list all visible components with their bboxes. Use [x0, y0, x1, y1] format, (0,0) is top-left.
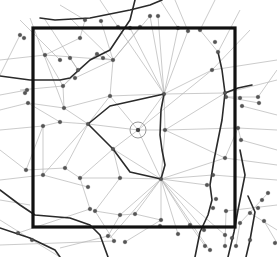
- network-node: [260, 198, 264, 202]
- network-node: [95, 52, 99, 56]
- network-node: [41, 124, 45, 128]
- network-node: [86, 185, 90, 189]
- network-node: [58, 58, 62, 62]
- network-node: [203, 244, 207, 248]
- network-node: [78, 36, 82, 40]
- network-node: [16, 231, 20, 235]
- network-node: [162, 92, 166, 96]
- network-node: [22, 36, 26, 40]
- network-node: [41, 173, 45, 177]
- network-node: [238, 96, 242, 100]
- network-node: [118, 213, 122, 217]
- network-node: [106, 234, 110, 238]
- network-node: [186, 29, 190, 33]
- network-node: [239, 138, 243, 142]
- network-node: [111, 58, 115, 62]
- network-node: [256, 206, 260, 210]
- network-node: [93, 209, 97, 213]
- network-node: [101, 56, 105, 60]
- network-node: [210, 68, 214, 72]
- network-node: [223, 156, 227, 160]
- network-node: [262, 219, 266, 223]
- network-node: [123, 240, 127, 244]
- network-node: [205, 183, 209, 187]
- network-node: [133, 212, 137, 216]
- network-node: [68, 56, 72, 60]
- network-node: [118, 176, 122, 180]
- network-node: [223, 244, 227, 248]
- network-node: [43, 53, 47, 57]
- network-node: [208, 248, 212, 252]
- network-node: [211, 173, 215, 177]
- network-node: [23, 91, 27, 95]
- network-node: [240, 104, 244, 108]
- network-node: [202, 228, 206, 232]
- network-node: [224, 209, 228, 213]
- network-node: [159, 218, 163, 222]
- network-node: [30, 238, 34, 242]
- network-node: [76, 68, 80, 72]
- network-node: [266, 191, 270, 195]
- network-node: [163, 128, 167, 132]
- network-node: [73, 76, 77, 80]
- network-node: [234, 244, 238, 248]
- network-node: [78, 176, 82, 180]
- network-node: [148, 14, 152, 18]
- network-node: [156, 14, 160, 18]
- target-point: [136, 128, 140, 132]
- network-node: [86, 122, 90, 126]
- network-node: [214, 197, 218, 201]
- network-node: [273, 241, 277, 245]
- network-node: [24, 168, 28, 172]
- network-node: [236, 126, 240, 130]
- network-node: [99, 19, 103, 23]
- network-node: [176, 232, 180, 236]
- network-node: [257, 101, 261, 105]
- network-node: [248, 238, 252, 242]
- network-node: [159, 177, 163, 181]
- network-node: [238, 221, 242, 225]
- network-node: [112, 239, 116, 243]
- network-node: [88, 207, 92, 211]
- network-node: [248, 211, 252, 215]
- network-node: [224, 95, 228, 99]
- network-node: [26, 101, 30, 105]
- network-node: [213, 40, 217, 44]
- network-node: [18, 33, 22, 37]
- network-node: [61, 84, 65, 88]
- network-node: [256, 95, 260, 99]
- network-node: [223, 91, 227, 95]
- network-node: [216, 50, 220, 54]
- network-node: [83, 18, 87, 22]
- triangulation-map: [0, 0, 277, 257]
- network-node: [111, 147, 115, 151]
- network-node: [223, 233, 227, 237]
- network-node: [230, 236, 234, 240]
- network-node: [108, 94, 112, 98]
- network-node: [58, 120, 62, 124]
- network-node: [62, 106, 66, 110]
- network-node: [63, 166, 67, 170]
- network-node: [211, 206, 215, 210]
